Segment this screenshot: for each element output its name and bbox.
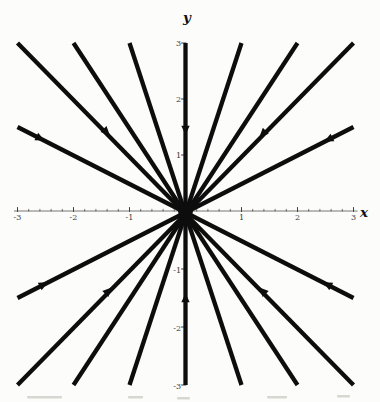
y-tick-label: 3: [176, 39, 181, 48]
y-tick-label: -3: [173, 382, 181, 391]
y-axis-label: y: [182, 9, 192, 25]
x-tick-label: 1: [239, 213, 244, 222]
scan-artifact: [267, 396, 287, 399]
flow-arrowhead: [181, 126, 189, 135]
x-tick-label: 2: [295, 213, 300, 222]
y-tick-label: 1: [176, 151, 181, 160]
scan-artifacts: [27, 395, 350, 400]
x-tick-label: 3: [351, 213, 356, 222]
flow-arrowhead: [181, 293, 189, 302]
origin-node: [178, 204, 193, 219]
trajectories: [18, 43, 354, 385]
x-tick-label: -1: [126, 213, 134, 222]
x-axis-label: x: [359, 204, 369, 220]
x-tick-label: -2: [70, 213, 78, 222]
x-tick-label: -3: [14, 213, 22, 222]
y-tick-label: 2: [176, 95, 181, 104]
scan-artifact: [128, 396, 143, 399]
y-tick-label: -1: [173, 266, 181, 275]
scan-artifact: [177, 397, 190, 400]
phase-portrait-figure: -3-2-1123321-1-2-3 y x: [0, 0, 380, 402]
scan-artifact: [337, 395, 350, 398]
y-tick-label: -2: [173, 324, 181, 333]
scan-artifact: [27, 396, 62, 399]
plot-canvas: -3-2-1123321-1-2-3 y x: [0, 0, 380, 402]
